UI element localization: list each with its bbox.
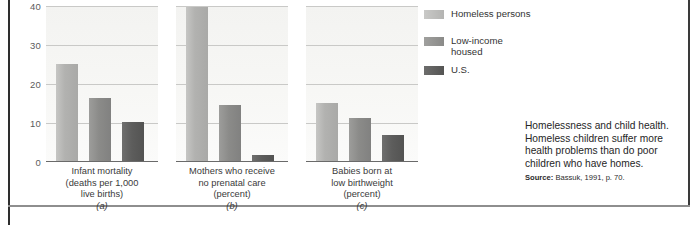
panel-caption-line: no prenatal care [162,178,302,190]
bar-group [306,7,418,161]
bar [382,135,404,160]
legend-label: Homeless persons [451,8,534,19]
y-tick-label: 40 [30,1,41,12]
panel-caption: Infant mortality(deaths per 1,000live bi… [32,166,172,213]
legend-item: Homeless persons [424,8,534,29]
bar-group [176,7,288,161]
source-label: Source: [525,173,553,182]
page-rule-left [8,0,10,225]
legend-swatch-icon [424,10,444,19]
bar [186,7,208,161]
y-tick-label: 10 [30,118,41,129]
axis-baseline [46,161,158,163]
bar-group [46,7,158,161]
bar [252,155,274,161]
panel-letter: (b) [162,201,302,213]
axis-baseline [176,161,288,163]
bar [349,118,371,160]
panel-caption-line: live births) [32,189,172,201]
panel-caption-line: (percent) [292,189,432,201]
panel-letter: (c) [292,201,432,213]
chart-panels: Infant mortality(deaths per 1,000live bi… [46,6,418,206]
panel-letter: (a) [32,201,172,213]
plot-area [306,6,418,162]
figure-caption-text: Homelessness and child health. Homeless … [525,120,685,170]
bar [219,105,241,161]
bar [56,64,78,160]
axis-baseline [306,161,418,163]
panel-caption-line: Mothers who receive [162,166,302,178]
legend-swatch-icon [424,66,444,75]
panel-caption: Mothers who receiveno prenatal care(perc… [162,166,302,213]
figure-source: Source: Bassuk, 1991, p. 70. [525,173,685,183]
plot-area [176,6,288,162]
bar [122,122,144,161]
figure-caption-block: Homelessness and child health. Homeless … [525,120,685,183]
panel-caption-line: (deaths per 1,000 [32,178,172,190]
bar [89,98,111,160]
chart-panel-a: Infant mortality(deaths per 1,000live bi… [46,6,158,206]
legend-label: U.S. [451,64,534,75]
panel-caption-line: low birthweight [292,178,432,190]
figure-root: 403020100 Infant mortality(deaths per 1,… [0,0,696,225]
panel-caption-line: (percent) [162,189,302,201]
chart-panel-b: Mothers who receiveno prenatal care(perc… [176,6,288,206]
page-rule-right [688,0,690,207]
y-tick-label: 30 [30,40,41,51]
chart-legend: Homeless personsLow-income housedU.S. [424,8,534,91]
bar [316,103,338,161]
legend-label: Low-income housed [451,35,534,58]
source-text: Bassuk, 1991, p. 70. [555,173,624,182]
panel-caption-line: Infant mortality [32,166,172,178]
y-axis: 403020100 [18,6,44,162]
panel-caption-line: Babies born at [292,166,432,178]
bar-chart: 403020100 Infant mortality(deaths per 1,… [18,6,418,206]
plot-area [46,6,158,162]
legend-swatch-icon [424,37,444,46]
y-tick-label: 20 [30,79,41,90]
legend-item: Low-income housed [424,35,534,58]
panel-caption: Babies born atlow birthweight(percent)(c… [292,166,432,213]
chart-panel-c: Babies born atlow birthweight(percent)(c… [306,6,418,206]
legend-item: U.S. [424,64,534,85]
